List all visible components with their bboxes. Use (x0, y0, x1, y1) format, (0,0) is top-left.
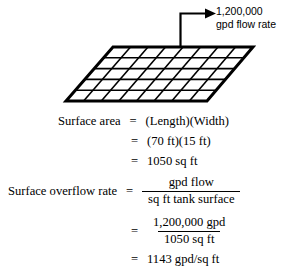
surface-plane-diagram: 1,200,000 gpd flow rate (0, 0, 292, 112)
overflow-rate-fraction-definition: gpd flow sq ft tank surface (136, 176, 240, 206)
equals-sign: = (128, 154, 141, 169)
fraction: gpd flow sq ft tank surface (142, 176, 240, 206)
surface-area-expression: (Length)(Width) (140, 114, 229, 129)
equation-overflow-rate-line2: = 1,200,000 gpd 1050 sq ft (128, 216, 231, 246)
flow-rate-label: 1,200,000 gpd flow rate (216, 5, 276, 31)
fraction-numerator: 1,200,000 gpd (147, 216, 231, 231)
equation-surface-area-line1: Surface area = (Length)(Width) (58, 114, 229, 129)
surface-area-result: 1050 sq ft (141, 154, 197, 169)
equals-sign: = (127, 114, 140, 129)
equation-overflow-rate-line1: Surface overflow rate = gpd flow sq ft t… (8, 176, 240, 206)
flow-rate-value: 1,200,000 (216, 5, 276, 18)
fraction: 1,200,000 gpd 1050 sq ft (147, 216, 231, 246)
overflow-rate-fraction-values: 1,200,000 gpd 1050 sq ft (141, 216, 231, 246)
overflow-rate-result: 1143 gpd/sq ft (141, 252, 219, 267)
surface-overflow-rate-label: Surface overflow rate (8, 184, 123, 199)
figure-page: 1,200,000 gpd flow rate Surface area = (… (0, 0, 292, 276)
equals-sign: = (128, 224, 141, 239)
flow-rate-units: gpd flow rate (216, 18, 276, 31)
equals-sign: = (128, 252, 141, 267)
fraction-numerator: gpd flow (163, 176, 220, 191)
surface-area-label: Surface area (58, 114, 127, 129)
fraction-denominator: sq ft tank surface (142, 191, 240, 207)
flow-rate-arrow (181, 9, 217, 48)
equation-overflow-rate-line3: = 1143 gpd/sq ft (128, 252, 219, 267)
equation-surface-area-line3: = 1050 sq ft (128, 154, 197, 169)
equation-surface-area-line2: = (70 ft)(15 ft) (128, 134, 211, 149)
fraction-denominator: 1050 sq ft (158, 231, 220, 247)
equations-block: Surface area = (Length)(Width) = (70 ft)… (0, 112, 292, 276)
surface-area-values: (70 ft)(15 ft) (141, 134, 211, 149)
equals-sign: = (128, 134, 141, 149)
equals-sign: = (123, 184, 136, 199)
